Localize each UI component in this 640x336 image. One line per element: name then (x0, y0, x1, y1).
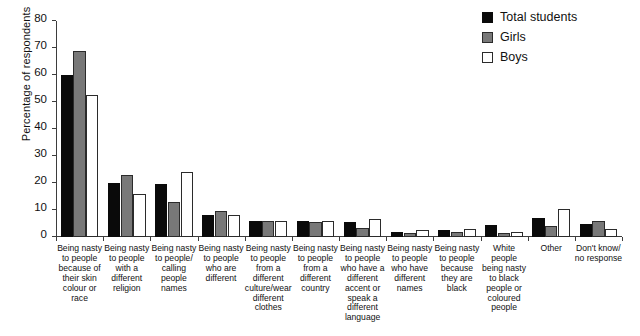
legend-item: Total students (482, 8, 628, 26)
y-axis-tick: 20 (52, 182, 56, 183)
y-axis-tick-label: 20 (34, 174, 47, 186)
x-axis-tick (386, 237, 387, 241)
x-axis-label: Being nasty to people with a different r… (102, 244, 151, 294)
y-axis-line (56, 21, 57, 237)
y-axis-tick-label: 30 (34, 147, 47, 159)
y-axis-tick-label: 0 (41, 228, 47, 240)
bar (249, 221, 261, 237)
bar (215, 211, 227, 237)
bar (532, 218, 544, 237)
x-axis-tick (433, 237, 434, 241)
x-axis-label: Don't know/ no response (574, 244, 623, 264)
bar (228, 215, 240, 237)
bar (181, 172, 193, 237)
bar (275, 221, 287, 237)
y-axis-tick: 10 (52, 209, 56, 210)
x-axis-tick (245, 237, 246, 241)
y-axis-tick-label: 10 (34, 201, 47, 213)
x-axis-tick (339, 237, 340, 241)
bar (451, 232, 463, 237)
bar (133, 194, 145, 237)
bar (605, 229, 617, 237)
x-axis-tick (103, 237, 104, 241)
legend-label: Total students (500, 10, 577, 24)
x-axis-labels: Being nasty to people because of their s… (56, 244, 622, 336)
y-axis-tick-label: 80 (34, 12, 47, 24)
legend-swatch-icon (482, 12, 493, 23)
x-axis-label: Being nasty to people because of their s… (55, 244, 104, 303)
bar (485, 225, 497, 237)
bar-group (108, 21, 146, 237)
y-axis-tick: 30 (52, 155, 56, 156)
x-axis-tick (481, 237, 482, 241)
bar (61, 75, 73, 237)
x-axis-label: Being nasty to people/ calling people na… (149, 244, 198, 294)
bar (592, 221, 604, 237)
bar-group (249, 21, 287, 237)
bar (464, 229, 476, 237)
x-axis-label: Other (527, 244, 576, 254)
y-axis-tick: 40 (52, 128, 56, 129)
y-axis-tick: 50 (52, 101, 56, 102)
bar (511, 232, 523, 237)
x-axis-label: Being nasty to people who have a differe… (338, 244, 387, 323)
bar (168, 202, 180, 237)
y-axis-tick-label: 40 (34, 120, 47, 132)
bar (404, 233, 416, 237)
bar (438, 230, 450, 237)
bar (73, 51, 85, 237)
bar (356, 228, 368, 237)
y-axis-tick-label: 50 (34, 93, 47, 105)
bar (344, 222, 356, 237)
bar (202, 215, 214, 237)
legend-label: Girls (500, 30, 526, 44)
bar-chart: Percentage of respondents 01020304050607… (0, 0, 640, 336)
bar (121, 175, 133, 237)
legend-swatch-icon (482, 32, 493, 43)
bar (498, 233, 510, 237)
y-axis-title: Percentage of respondents (20, 0, 32, 164)
y-axis-tick: 80 (52, 20, 56, 21)
chart-legend: Total studentsGirlsBoys (482, 8, 628, 68)
bar (416, 230, 428, 237)
x-axis-tick (150, 237, 151, 241)
x-axis-label: Being nasty to people from a different c… (291, 244, 340, 294)
x-axis-tick (575, 237, 576, 241)
bar-group (297, 21, 335, 237)
x-axis-label: Being nasty to people who are different (197, 244, 246, 284)
x-axis-tick (56, 237, 57, 241)
bar (262, 221, 274, 237)
x-axis-label: White people being nasty to black people… (480, 244, 529, 313)
bar (369, 219, 381, 237)
y-axis-tick-label: 60 (34, 66, 47, 78)
bar (545, 226, 557, 237)
x-axis-label: Being nasty to people because they are b… (432, 244, 481, 294)
legend-swatch-icon (482, 52, 493, 63)
bar (155, 184, 167, 237)
bar-group (155, 21, 193, 237)
bar (309, 222, 321, 237)
bar (322, 221, 334, 237)
x-axis-tick (528, 237, 529, 241)
bar-group (202, 21, 240, 237)
bar (391, 232, 403, 237)
bar-group (61, 21, 99, 237)
x-axis-tick (622, 237, 623, 241)
y-axis-tick: 70 (52, 47, 56, 48)
x-axis-tick (198, 237, 199, 241)
x-axis-label: Being nasty to people who have different… (385, 244, 434, 294)
bar (297, 221, 309, 237)
legend-item: Boys (482, 48, 628, 66)
y-axis-tick-label: 70 (34, 39, 47, 51)
bar (108, 183, 120, 237)
bar-group (344, 21, 382, 237)
y-axis-tick: 60 (52, 74, 56, 75)
bar (86, 95, 98, 237)
x-axis-label: Being nasty to people from a different c… (244, 244, 293, 313)
bar-group (438, 21, 476, 237)
bar (558, 209, 570, 237)
bar-group (391, 21, 429, 237)
x-axis-tick (292, 237, 293, 241)
bar (580, 224, 592, 238)
legend-label: Boys (500, 50, 528, 64)
